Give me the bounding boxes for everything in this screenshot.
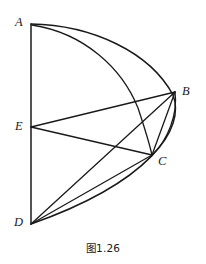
geometry-diagram <box>0 0 206 264</box>
segment-CD <box>31 155 152 224</box>
figure-caption: 图1.26 <box>0 240 206 255</box>
vertex-label-d: D <box>14 216 23 229</box>
vertex-label-b: B <box>182 85 190 98</box>
vertex-label-a: A <box>15 16 23 29</box>
geometry-figure: A B C D E 图1.26 <box>0 0 206 264</box>
segment-BD <box>31 92 175 224</box>
segment-EB <box>31 92 175 127</box>
segment-EC <box>31 127 152 155</box>
arc-A-C <box>32 25 152 155</box>
arc-A-B-D <box>31 24 176 224</box>
vertex-label-c: C <box>158 155 166 168</box>
vertex-label-e: E <box>15 120 23 133</box>
